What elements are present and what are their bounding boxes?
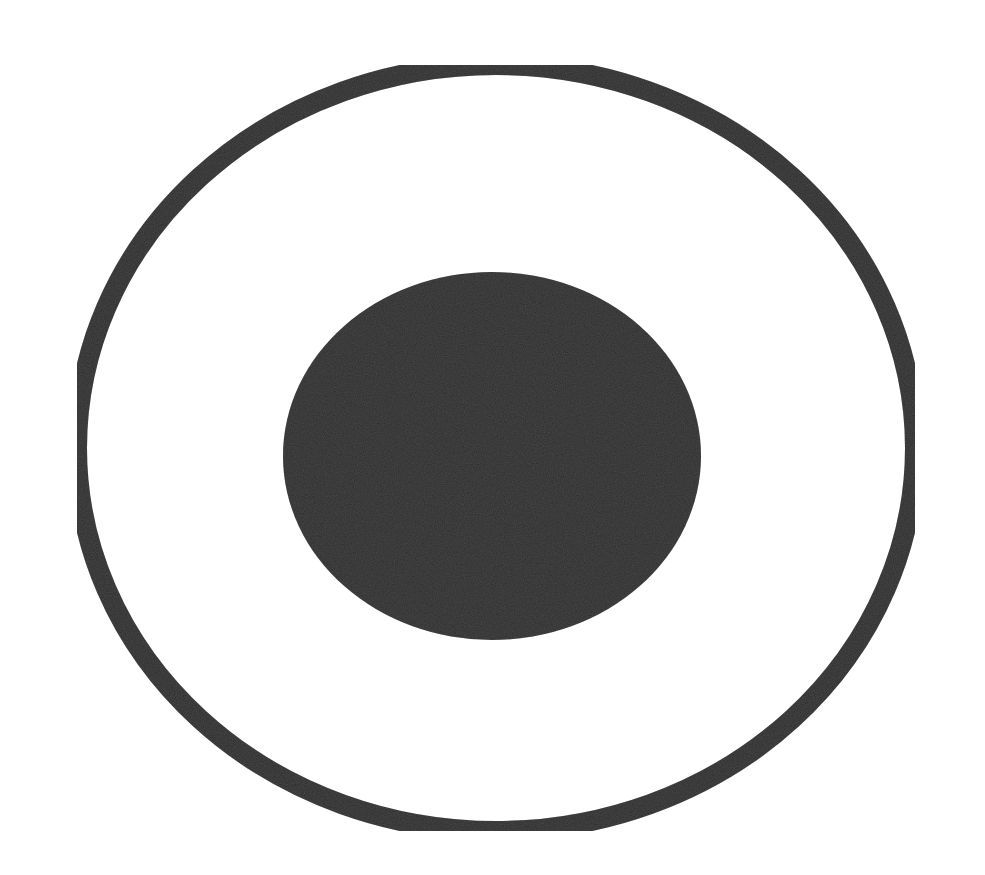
ring-and-dot-figure: [0, 0, 985, 875]
center-dot-shape: [283, 272, 701, 640]
